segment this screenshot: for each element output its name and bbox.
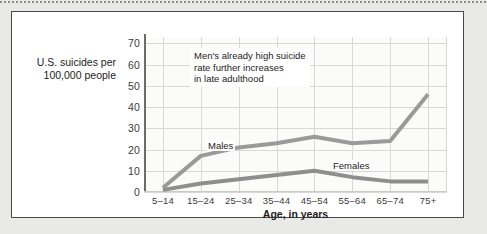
y-axis-tick-labels: 010203040506070 bbox=[116, 37, 140, 192]
gridline-horizontal bbox=[144, 192, 447, 193]
chart-frame: U.S. suicides per 100,000 people 0102030… bbox=[11, 11, 464, 218]
y-axis-title: U.S. suicides per 100,000 people bbox=[30, 56, 116, 82]
x-axis-tick-label: 45–54 bbox=[301, 195, 328, 206]
chart-annotation: Men's already high suicide rate further … bbox=[190, 48, 310, 87]
x-axis-tick-label: 25–34 bbox=[225, 195, 252, 206]
x-axis-tick-label: 55–64 bbox=[339, 195, 366, 206]
x-axis-tick-labels: 5–1415–2425–3435–4445–5455–6465–7475+ bbox=[144, 195, 447, 209]
y-axis-tick-label: 20 bbox=[128, 144, 140, 156]
y-axis-tick-label: 50 bbox=[128, 80, 140, 92]
x-axis-tick-label: 15–24 bbox=[187, 195, 214, 206]
figure-root: U.S. suicides per 100,000 people 0102030… bbox=[0, 0, 487, 234]
y-axis-tick-label: 60 bbox=[128, 59, 140, 71]
top-dotted-strip bbox=[0, 0, 487, 5]
y-axis-tick-label: 70 bbox=[128, 37, 140, 49]
y-axis-tick-label: 0 bbox=[134, 186, 140, 198]
x-axis-title: Age, in years bbox=[144, 208, 447, 220]
series-label-females: Females bbox=[331, 160, 371, 171]
x-axis-tick-label: 65–74 bbox=[376, 195, 403, 206]
y-axis-tick-label: 40 bbox=[128, 101, 140, 113]
series-line-females bbox=[163, 171, 428, 190]
y-axis-tick-label: 30 bbox=[128, 122, 140, 134]
series-label-males: Males bbox=[206, 140, 235, 151]
x-axis-tick-label: 35–44 bbox=[263, 195, 290, 206]
y-axis-tick-label: 10 bbox=[128, 165, 140, 177]
x-axis-tick-label: 5–14 bbox=[152, 195, 174, 206]
x-axis-tick-label: 75+ bbox=[420, 195, 437, 206]
